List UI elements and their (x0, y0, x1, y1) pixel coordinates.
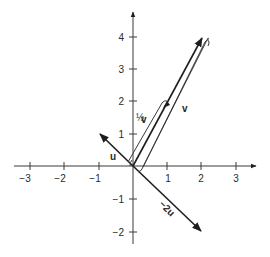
y-tick-label: 2 (118, 96, 124, 107)
x-tick-label: −2 (54, 173, 66, 184)
half-v-arrowhead (163, 101, 170, 108)
y-tick-label: −2 (113, 227, 125, 238)
vector-v-label: v (182, 103, 188, 114)
vector-neg2u-label: −2u (157, 198, 177, 218)
half-v-letter: v (141, 114, 147, 125)
y-axis: 4 3 2 1 −1 −2 (113, 12, 137, 244)
y-tick-label: 3 (118, 64, 124, 75)
bracket-v: v (138, 38, 209, 172)
x-tick-label: −1 (89, 173, 101, 184)
vector-v (133, 38, 202, 166)
y-tick-label: 4 (118, 32, 124, 43)
vector-diagram: −3 −2 −1 1 2 3 4 3 2 1 −1 −2 u −2u (0, 0, 270, 257)
y-tick-label: 1 (118, 129, 124, 140)
x-tick-label: −3 (19, 173, 31, 184)
bracket-half-v: ½ v (128, 101, 167, 166)
x-tick-label: 1 (165, 173, 171, 184)
x-tick-label: 2 (198, 173, 204, 184)
x-tick-label: 3 (233, 173, 239, 184)
vector-u-label: u (110, 151, 116, 162)
y-tick-label: −1 (113, 194, 125, 205)
x-axis: −3 −2 −1 1 2 3 (14, 162, 256, 184)
